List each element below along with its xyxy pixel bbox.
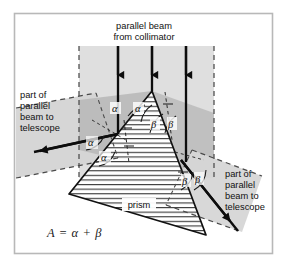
right-beam-label-line2: parallel — [225, 180, 255, 190]
beta-label-exit-right: β — [194, 174, 201, 185]
beta-label-apex-right: β — [167, 119, 174, 130]
prism-label: prism — [122, 198, 156, 211]
alpha-label-apex-left: α — [112, 103, 118, 114]
prism-label-text: prism — [128, 200, 151, 210]
left-beam-label-line3: beam to — [20, 112, 54, 122]
beta-label-apex-left: β — [150, 119, 157, 130]
top-beam-label: parallel beam from collimator — [114, 21, 175, 42]
top-beam-label-line1: parallel beam — [116, 21, 172, 31]
alpha-label-apex-right: α — [135, 103, 141, 114]
right-beam-label-line3: beam to — [225, 191, 259, 201]
alpha-label-entry-upper: α — [88, 137, 94, 148]
top-beam-label-line2: from collimator — [114, 32, 175, 42]
left-beam-label-line2: parallel — [20, 101, 50, 111]
prism-diagram-figure: α α α α β β β β parallel beam from colli… — [0, 0, 288, 268]
alpha-label-entry-lower: α — [101, 152, 107, 163]
left-beam-label-line1: part of — [20, 90, 47, 100]
angle-formula: A = α + β — [46, 226, 102, 240]
beta-label-exit-left: β — [181, 176, 188, 187]
right-beam-label-line4: telescope — [225, 202, 265, 212]
diagram-canvas: α α α α β β β β parallel beam from colli… — [0, 0, 288, 268]
right-beam-label-line1: part of — [225, 169, 252, 179]
left-beam-label-line4: telescope — [20, 123, 60, 133]
